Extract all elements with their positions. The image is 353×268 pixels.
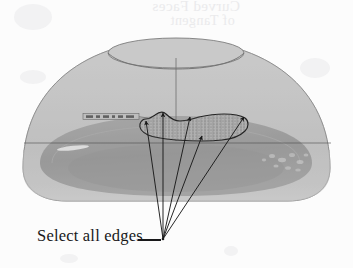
- leader-convergence-point: [162, 238, 165, 241]
- figure-page: Curved Faces of Tangent: [0, 0, 353, 268]
- caption-label: Select all edges: [37, 226, 143, 246]
